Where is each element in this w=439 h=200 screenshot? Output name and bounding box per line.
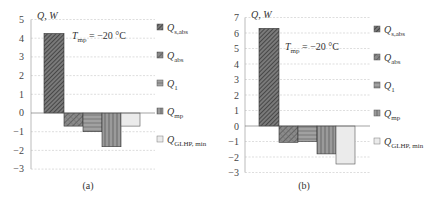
bar-a-q1 — [83, 113, 102, 132]
panel-b: 7 6 5 4 3 2 1 0 −1 −2 −3 Q, W Tmp = −20 … — [228, 9, 423, 192]
bar-a-qsabs — [44, 34, 64, 114]
svg-text:0: 0 — [234, 121, 239, 132]
svg-text:Q1: Q1 — [384, 80, 395, 94]
bar-b-qsabs — [259, 28, 279, 126]
bar-a-qmp — [102, 113, 121, 147]
y-axis-label-b: Q, W — [251, 9, 273, 20]
svg-text:6: 6 — [234, 28, 239, 39]
svg-text:2: 2 — [234, 90, 239, 101]
svg-text:1: 1 — [19, 89, 24, 100]
svg-text:3: 3 — [19, 51, 24, 62]
legend-item-q1: Q1 — [374, 80, 395, 94]
svg-text:Qs,abs: Qs,abs — [167, 22, 188, 36]
figure: 5 4 3 2 1 0 −1 −2 −3 Q, W Tmp = −20 °C (… — [0, 0, 439, 200]
svg-text:QGLHP, min: QGLHP, min — [384, 136, 424, 150]
bar-a-qabs — [64, 113, 83, 126]
svg-text:Qabs: Qabs — [167, 50, 184, 64]
svg-text:Qmp: Qmp — [167, 106, 184, 120]
svg-text:Qs,abs: Qs,abs — [384, 24, 405, 38]
legend-item-qabs: Qabs — [157, 50, 184, 64]
bar-b-qabs — [279, 126, 298, 142]
legend-item-qsabs: Qs,abs — [374, 24, 405, 38]
svg-text:1: 1 — [234, 105, 239, 116]
legend-item-qglhp: QGLHP, min — [374, 136, 424, 150]
svg-text:Qmp: Qmp — [384, 108, 401, 122]
svg-text:−2: −2 — [13, 145, 24, 156]
panel-a: 5 4 3 2 1 0 −1 −2 −3 Q, W Tmp = −20 °C (… — [13, 10, 206, 192]
svg-text:7: 7 — [234, 12, 239, 23]
panel-label-a: (a) — [82, 180, 93, 192]
svg-text:−2: −2 — [228, 152, 239, 163]
svg-text:−3: −3 — [13, 163, 24, 174]
y-ticks-b: 7 6 5 4 3 2 1 0 −1 −2 −3 — [228, 12, 239, 178]
svg-text:−1: −1 — [13, 126, 24, 137]
legend-item-qmp: Qmp — [157, 106, 184, 120]
legend-a: Qs,abs Qabs Q1 Qmp QGLHP, min — [157, 22, 207, 148]
bar-b-qglhp — [336, 126, 355, 164]
legend-item-qglhp: QGLHP, min — [157, 134, 207, 148]
svg-text:0: 0 — [19, 107, 24, 118]
bar-b-qmp — [317, 126, 336, 154]
svg-text:−1: −1 — [228, 136, 239, 147]
panel-label-b: (b) — [298, 180, 310, 192]
legend-item-qsabs: Qs,abs — [157, 22, 188, 36]
svg-text:4: 4 — [234, 59, 239, 70]
annotation-b: Tmp = −20 °C — [285, 41, 339, 55]
bar-b-q1 — [298, 126, 317, 142]
svg-text:QGLHP, min: QGLHP, min — [167, 134, 207, 148]
svg-text:−3: −3 — [228, 167, 239, 178]
svg-text:Q1: Q1 — [167, 78, 178, 92]
y-ticks-a: 5 4 3 2 1 0 −1 −2 −3 — [13, 14, 24, 174]
svg-text:5: 5 — [234, 43, 239, 54]
legend-item-q1: Q1 — [157, 78, 178, 92]
legend-item-qabs: Qabs — [374, 52, 401, 66]
legend-item-qmp: Qmp — [374, 108, 401, 122]
svg-text:2: 2 — [19, 70, 24, 81]
svg-text:5: 5 — [19, 14, 24, 25]
legend-b: Qs,abs Qabs Q1 Qmp QGLHP, min — [374, 24, 424, 150]
svg-text:3: 3 — [234, 74, 239, 85]
bar-a-qglhp — [121, 113, 140, 126]
y-axis-label-a: Q, W — [37, 10, 59, 21]
svg-text:Qabs: Qabs — [384, 52, 401, 66]
svg-text:4: 4 — [19, 33, 24, 44]
annotation-a: Tmp = −20 °C — [72, 30, 126, 44]
